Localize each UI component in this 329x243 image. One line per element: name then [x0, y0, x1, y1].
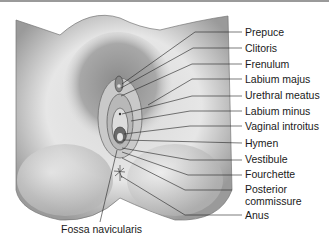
label-fourchette: Fourchette [245, 169, 295, 180]
label-anus: Anus [245, 210, 269, 221]
label-clitoris: Clitoris [245, 43, 277, 54]
label-hymen: Hymen [245, 138, 278, 149]
label-posterior-commissure-line2: commissure [245, 196, 302, 207]
label-prepuce: Prepuce [245, 27, 284, 38]
label-labium-minus: Labium minus [245, 106, 310, 117]
label-frenulum: Frenulum [245, 59, 289, 70]
label-vaginal-introitus: Vaginal introitus [245, 121, 319, 132]
label-posterior-commissure: Posterior [245, 184, 287, 195]
label-labium-majus: Labium majus [245, 74, 310, 85]
label-vestibule: Vestibule [245, 154, 288, 165]
label-fossa-navicularis: Fossa navicularis [61, 224, 142, 235]
label-urethral-meatus: Urethral meatus [245, 90, 320, 101]
